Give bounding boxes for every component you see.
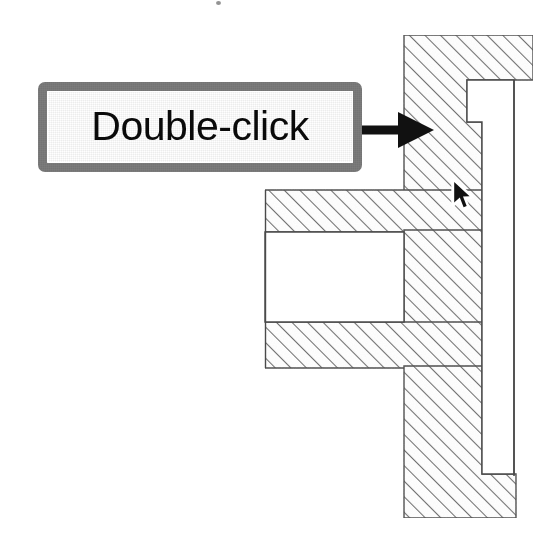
arrow-pointing-right-icon	[352, 108, 442, 152]
callout-box[interactable]: Double-click	[38, 82, 362, 172]
scan-speck	[216, 1, 221, 5]
diagram-canvas: Double-click	[0, 0, 553, 556]
central-bore-void	[265, 232, 404, 322]
region-lower-web-bar	[265, 322, 482, 368]
mouse-pointer-icon	[450, 178, 476, 214]
arrow-shaft-and-head	[354, 112, 434, 148]
region-mid-right-column	[404, 230, 482, 324]
callout-label: Double-click	[91, 106, 308, 147]
